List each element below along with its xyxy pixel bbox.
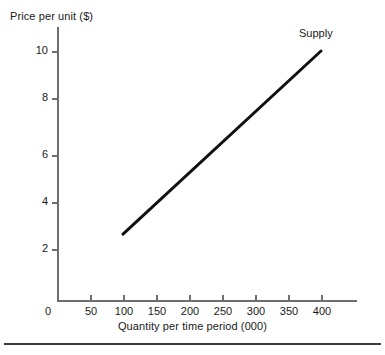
footer-divider xyxy=(4,343,381,345)
x-tick-mark-250 xyxy=(222,295,224,301)
x-tick-mark-400 xyxy=(321,295,323,301)
y-tick-label-10: 10 xyxy=(14,44,48,56)
x-tick-mark-150 xyxy=(156,295,158,301)
x-tick-mark-200 xyxy=(189,295,191,301)
y-axis-title: Price per unit ($) xyxy=(10,10,93,22)
y-tick-mark-2 xyxy=(52,249,58,251)
y-tick-mark-4 xyxy=(52,202,58,204)
y-tick-label-2: 2 xyxy=(14,242,48,254)
y-tick-label-6: 6 xyxy=(14,148,48,160)
supply-series-label: Supply xyxy=(299,27,333,39)
y-axis-line xyxy=(57,27,59,301)
y-tick-mark-10 xyxy=(52,51,58,53)
y-tick-label-8: 8 xyxy=(14,91,48,103)
y-tick-mark-6 xyxy=(52,155,58,157)
x-tick-label-0: 0 xyxy=(28,305,68,317)
x-tick-mark-300 xyxy=(255,295,257,301)
x-tick-mark-50 xyxy=(90,295,92,301)
x-tick-mark-100 xyxy=(123,295,125,301)
supply-curve-line xyxy=(123,51,321,234)
x-tick-mark-350 xyxy=(288,295,290,301)
y-tick-mark-8 xyxy=(52,98,58,100)
x-axis-title: Quantity per time period (000) xyxy=(0,320,385,332)
x-axis-line xyxy=(57,300,357,302)
x-tick-label-400: 400 xyxy=(302,305,342,317)
supply-curve-figure: Price per unit ($) 10 8 6 4 2 0 50 100 1… xyxy=(0,0,385,355)
y-tick-label-4: 4 xyxy=(14,195,48,207)
